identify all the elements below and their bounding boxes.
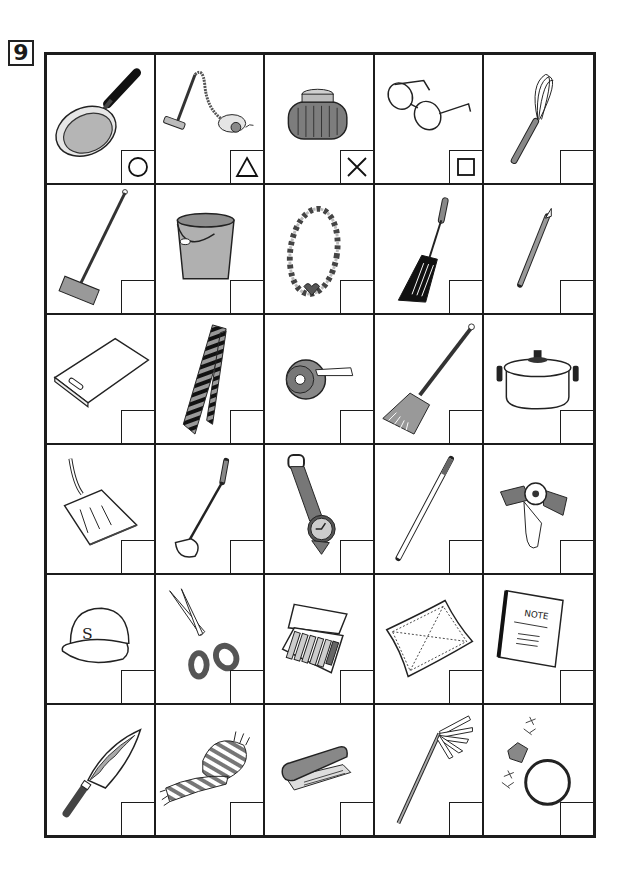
cell-necklace[interactable]: bead necklace	[265, 185, 374, 315]
answer-box[interactable]	[449, 410, 482, 443]
cell-scissors[interactable]: scissors	[156, 575, 265, 705]
answer-box[interactable]	[121, 802, 154, 835]
cell-eyeglasses[interactable]: eyeglasses	[375, 55, 484, 185]
cell-cutting-board[interactable]: cutting board	[47, 315, 156, 445]
answer-box[interactable]	[449, 280, 482, 313]
cell-whisk[interactable]: whisk	[484, 55, 593, 185]
answer-box[interactable]	[560, 150, 593, 183]
picture-grid: frying pan vacuum cleaner rice cooker po…	[44, 52, 596, 838]
answer-box[interactable]	[449, 670, 482, 703]
answer-box[interactable]	[560, 280, 593, 313]
cell-wristwatch[interactable]: wristwatch	[265, 445, 374, 575]
cell-pencil[interactable]: pencil	[484, 185, 593, 315]
answer-box[interactable]	[340, 150, 373, 183]
cell-hand-broom[interactable]: hand broom	[375, 315, 484, 445]
cross-mark-icon	[345, 155, 369, 179]
answer-box[interactable]	[340, 410, 373, 443]
cell-scarf[interactable]: scarf	[156, 705, 265, 835]
cell-pen[interactable]: pen	[375, 445, 484, 575]
answer-box[interactable]	[230, 150, 263, 183]
triangle-mark-icon	[235, 155, 259, 179]
cell-rice-cooker-pot[interactable]: rice cooker pot	[265, 55, 374, 185]
cell-bucket[interactable]: bucket	[156, 185, 265, 315]
cell-hair-clip[interactable]: hair clip	[484, 445, 593, 575]
answer-box[interactable]	[340, 280, 373, 313]
cell-cooking-pot[interactable]: cooking pot	[484, 315, 593, 445]
problem-number: 9	[8, 40, 34, 66]
answer-box[interactable]	[560, 540, 593, 573]
cell-frying-pan[interactable]: frying pan	[47, 55, 156, 185]
cell-stapler[interactable]: stapler	[265, 705, 374, 835]
answer-box[interactable]	[560, 802, 593, 835]
answer-box[interactable]	[121, 280, 154, 313]
cell-ladle[interactable]: ladle	[156, 445, 265, 575]
answer-box[interactable]	[121, 540, 154, 573]
answer-box[interactable]	[449, 150, 482, 183]
answer-box[interactable]	[230, 802, 263, 835]
cell-spatula[interactable]: spatula	[375, 185, 484, 315]
answer-box[interactable]	[230, 410, 263, 443]
answer-box[interactable]	[230, 280, 263, 313]
answer-box[interactable]	[560, 410, 593, 443]
cell-crayons[interactable]: crayons box	[265, 575, 374, 705]
answer-box[interactable]	[121, 410, 154, 443]
answer-box[interactable]	[560, 670, 593, 703]
cell-tape-dispenser[interactable]: tape dispenser	[265, 315, 374, 445]
cell-baseball-cap[interactable]: baseball cap S	[47, 575, 156, 705]
answer-box[interactable]	[449, 540, 482, 573]
cell-deck-brush[interactable]: broom (deck brush)	[47, 185, 156, 315]
answer-box[interactable]	[230, 670, 263, 703]
cell-ring[interactable]: diamond ring	[484, 705, 593, 835]
answer-box[interactable]	[121, 670, 154, 703]
answer-box[interactable]	[230, 540, 263, 573]
answer-box[interactable]	[340, 540, 373, 573]
circle-mark-icon	[126, 155, 150, 179]
answer-box[interactable]	[449, 802, 482, 835]
answer-box[interactable]	[121, 150, 154, 183]
cell-handkerchief[interactable]: handkerchief	[375, 575, 484, 705]
square-mark-icon	[454, 155, 478, 179]
answer-box[interactable]	[340, 670, 373, 703]
cell-notebook[interactable]: notebook NOTE	[484, 575, 593, 705]
cell-mop[interactable]: mop	[375, 705, 484, 835]
cell-dustpan[interactable]: dustpan	[47, 445, 156, 575]
cell-kitchen-knife[interactable]: kitchen knife	[47, 705, 156, 835]
answer-box[interactable]	[340, 802, 373, 835]
cell-necktie[interactable]: necktie	[156, 315, 265, 445]
cell-vacuum-cleaner[interactable]: vacuum cleaner	[156, 55, 265, 185]
cap-letter: S	[82, 625, 93, 643]
